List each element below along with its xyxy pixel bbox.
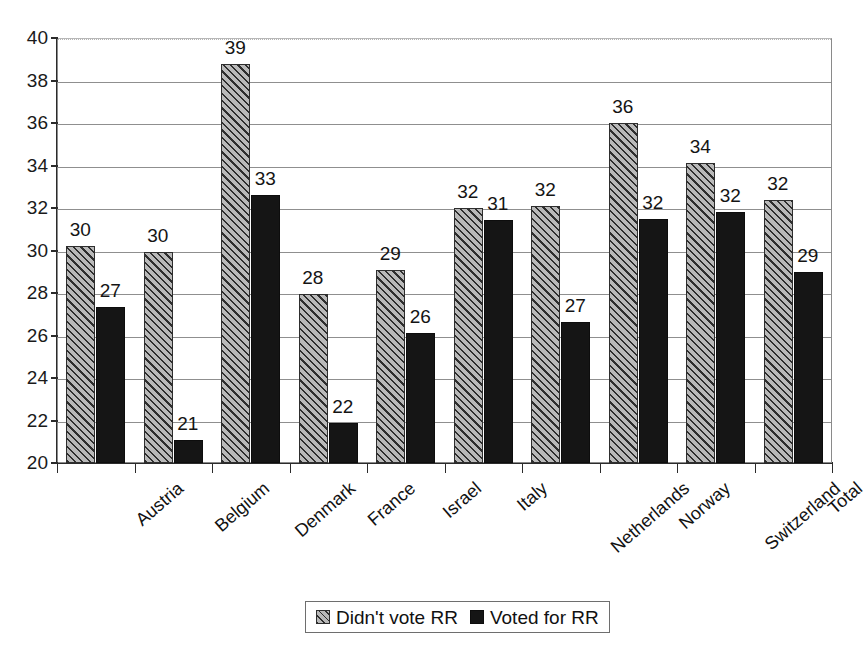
x-axis-label: Italy [513, 478, 551, 515]
bar-value-label: 32 [767, 174, 788, 193]
y-tick-mark [51, 37, 58, 39]
bar-value-label: 36 [612, 97, 633, 116]
bar-austria-voted-for-rr [96, 307, 125, 463]
bar-norway-voted-for-rr [639, 219, 668, 463]
bar-value-label: 39 [225, 38, 246, 57]
bar-value-label: 26 [410, 307, 431, 326]
y-tick-label: 20 [8, 453, 48, 472]
x-tick-mark [57, 463, 58, 473]
x-tick-mark [755, 463, 756, 473]
bar-value-label: 32 [642, 193, 663, 212]
y-tick-mark [51, 207, 58, 209]
y-tick-label: 22 [8, 411, 48, 430]
bar-italy-didnt-vote-rr [454, 208, 483, 463]
bar-switzerland-didnt-vote-rr [686, 163, 715, 463]
bar-value-label: 27 [565, 296, 586, 315]
x-tick-mark [445, 463, 446, 473]
y-tick-label: 28 [8, 283, 48, 302]
legend-swatch-hatched-icon [316, 610, 330, 624]
legend-label: Didn't vote RR [336, 608, 458, 627]
bar-total-didnt-vote-rr [764, 200, 793, 464]
y-tick-mark [51, 420, 58, 422]
bar-value-label: 28 [302, 268, 323, 287]
y-tick-label: 36 [8, 113, 48, 132]
y-tick-mark [51, 250, 58, 252]
bar-italy-voted-for-rr [484, 220, 513, 463]
bar-austria-didnt-vote-rr [66, 246, 95, 463]
x-axis-label: Belgium [211, 478, 273, 536]
x-tick-mark [135, 463, 136, 473]
y-tick-label: 34 [8, 156, 48, 175]
bar-value-label: 34 [690, 137, 711, 156]
bar-belgium-didnt-vote-rr [144, 252, 173, 463]
legend-entry-voted-for-rr: Voted for RR [470, 608, 599, 627]
bar-value-label: 27 [100, 281, 121, 300]
y-tick-label: 32 [8, 198, 48, 217]
legend-swatch-solid-icon [470, 610, 484, 624]
bar-value-label: 30 [147, 226, 168, 245]
bar-total-voted-for-rr [794, 272, 823, 463]
x-tick-mark [522, 463, 523, 473]
y-tick-label: 26 [8, 326, 48, 345]
bar-denmark-voted-for-rr [251, 195, 280, 463]
bar-value-label: 32 [457, 182, 478, 201]
bar-value-label: 29 [380, 244, 401, 263]
bar-denmark-didnt-vote-rr [221, 64, 250, 464]
bar-france-voted-for-rr [329, 423, 358, 463]
y-tick-mark [51, 165, 58, 167]
y-tick-mark [51, 377, 58, 379]
gridline [58, 124, 831, 125]
x-tick-mark [212, 463, 213, 473]
bar-value-label: 33 [255, 169, 276, 188]
y-tick-label: 24 [8, 368, 48, 387]
x-axis-label: France [364, 478, 419, 530]
x-tick-mark [677, 463, 678, 473]
y-tick-label: 40 [8, 28, 48, 47]
bar-israel-didnt-vote-rr [376, 270, 405, 463]
y-tick-mark [51, 122, 58, 124]
y-tick-label: 38 [8, 71, 48, 90]
bar-value-label: 32 [535, 180, 556, 199]
y-tick-mark [51, 335, 58, 337]
x-axis-label: Austria [131, 478, 186, 530]
bar-netherlands-didnt-vote-rr [531, 206, 560, 463]
x-tick-mark [290, 463, 291, 473]
bar-france-didnt-vote-rr [299, 294, 328, 463]
bar-norway-didnt-vote-rr [609, 123, 638, 463]
x-axis-label: Switzerland [761, 478, 844, 554]
x-axis-label: Israel [439, 478, 485, 522]
bar-value-label: 32 [720, 186, 741, 205]
x-tick-mark [600, 463, 601, 473]
bar-value-label: 22 [332, 397, 353, 416]
chart-legend: Didn't vote RRVoted for RR [305, 601, 610, 633]
legend-entry-didnt-vote-rr: Didn't vote RR [316, 608, 458, 627]
bar-switzerland-voted-for-rr [716, 212, 745, 463]
gridline [58, 39, 831, 41]
bar-netherlands-voted-for-rr [561, 322, 590, 463]
y-tick-label: 30 [8, 241, 48, 260]
y-tick-mark [51, 80, 58, 82]
x-axis-label: Denmark [291, 478, 359, 541]
bar-belgium-voted-for-rr [174, 440, 203, 463]
x-tick-mark [367, 463, 368, 473]
bar-value-label: 21 [177, 414, 198, 433]
y-tick-mark [51, 292, 58, 294]
gridline [58, 82, 831, 83]
bar-israel-voted-for-rr [406, 333, 435, 463]
legend-label: Voted for RR [490, 608, 599, 627]
bar-value-label: 29 [797, 246, 818, 265]
bar-value-label: 31 [487, 194, 508, 213]
bar-value-label: 30 [70, 220, 91, 239]
x-tick-mark [832, 463, 833, 473]
